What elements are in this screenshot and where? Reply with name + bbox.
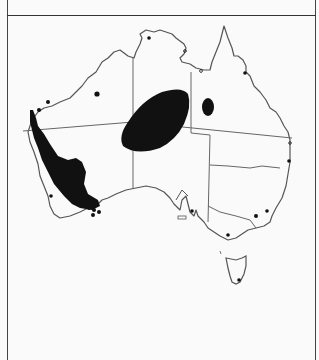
record-wa-south-cluster-2 xyxy=(92,208,96,212)
record-wa-southwest-coast xyxy=(49,194,53,198)
range-area-central-australia xyxy=(121,89,189,151)
kangaroo-island xyxy=(178,216,186,219)
tasmania-outline xyxy=(226,256,246,284)
record-pilbara-coast-1 xyxy=(46,100,50,104)
range-area-western-australia xyxy=(30,110,100,210)
record-kimberley-inland xyxy=(94,91,99,96)
record-darwin xyxy=(147,36,151,40)
record-pilbara-coast-2 xyxy=(37,108,41,112)
record-nsw-inland xyxy=(254,214,258,218)
record-victoria xyxy=(226,233,230,237)
record-nsw-coast xyxy=(265,209,269,213)
record-wa-south-cluster-3 xyxy=(97,210,101,214)
record-qld-north-coast xyxy=(243,71,247,75)
range-area-western-queensland xyxy=(202,98,214,116)
record-wa-south-cluster-1 xyxy=(87,206,91,210)
record-adelaide xyxy=(190,209,194,213)
record-wa-south-cluster-4 xyxy=(91,213,95,217)
record-tasmania xyxy=(237,278,241,282)
record-gulf xyxy=(200,70,203,73)
king-island xyxy=(220,251,221,254)
record-qld-southeast-coast xyxy=(287,159,291,163)
